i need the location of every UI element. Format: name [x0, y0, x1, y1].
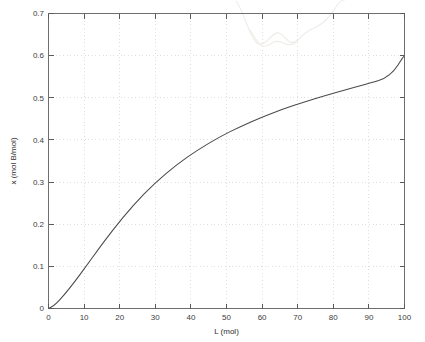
chart-figure: 0 0.1 0.2 0.3 0.4 0.5 0.6 0.7 0 10 20 30… [0, 0, 425, 342]
y-axis-title: x (mol B/mol) [9, 137, 18, 184]
y-tick-label: 0.5 [33, 94, 45, 103]
x-tick-label: 0 [46, 313, 51, 322]
x-tick-label: 20 [115, 313, 124, 322]
y-tick-label: 0 [40, 304, 45, 313]
x-tick-label: 90 [364, 313, 373, 322]
x-tick-label: 10 [80, 313, 89, 322]
x-tick-label: 70 [293, 313, 302, 322]
chart-svg: 0 0.1 0.2 0.3 0.4 0.5 0.6 0.7 0 10 20 30… [0, 0, 425, 342]
x-tick-label: 30 [151, 313, 160, 322]
y-tick-label: 0.2 [33, 220, 45, 229]
y-tick-label: 0.4 [33, 136, 45, 145]
y-tick-label: 0.6 [33, 51, 45, 60]
x-tick-label: 80 [329, 313, 338, 322]
x-tick-label: 60 [258, 313, 267, 322]
x-axis-title: L (mol) [214, 327, 239, 336]
plot-background [49, 14, 405, 309]
y-tick-label: 0.7 [33, 9, 45, 18]
x-tick-label: 40 [186, 313, 195, 322]
y-tick-label: 0.1 [33, 262, 45, 271]
x-tick-label: 100 [398, 313, 412, 322]
x-tick-label: 50 [222, 313, 231, 322]
y-tick-label: 0.3 [33, 178, 45, 187]
